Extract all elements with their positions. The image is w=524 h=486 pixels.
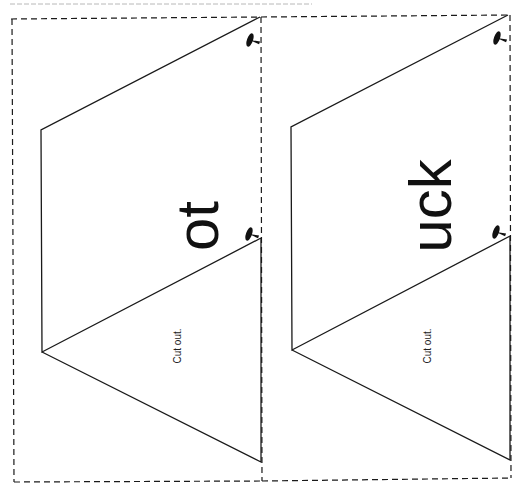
- tack-icon: [245, 32, 262, 50]
- card-1-tack-icons: [244, 32, 262, 244]
- card-2-cut-out-label: Cut out.: [423, 328, 433, 363]
- tack-icon: [244, 226, 261, 244]
- tack-icon: [491, 224, 508, 242]
- tack-icon: [492, 30, 509, 48]
- card-2-tack-icons: [491, 30, 509, 242]
- card-2-word-ending: uck: [401, 159, 461, 252]
- card-1-word-ending: ot: [168, 201, 228, 251]
- card-1-cut-out-label: Cut out.: [173, 328, 183, 363]
